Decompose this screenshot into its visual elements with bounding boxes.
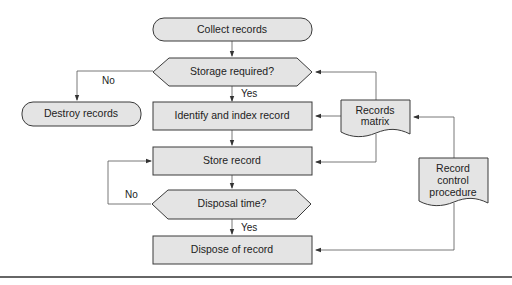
node-collect-records: Collect records xyxy=(153,18,312,41)
node-label: Collect records xyxy=(197,23,267,35)
node-records-matrix: Records matrix xyxy=(341,100,410,137)
arrow-control-to-matrix xyxy=(414,117,454,158)
node-identify-index: Identify and index record xyxy=(153,102,312,130)
arrow-storage-no-to-destroy xyxy=(77,71,153,100)
node-label: Destroy records xyxy=(44,107,118,119)
edge-label-storage-yes: Yes xyxy=(241,88,257,99)
records-flowchart: No Yes No Yes Collect records Storage re… xyxy=(0,0,512,285)
arrow-matrix-to-store xyxy=(316,134,376,162)
node-label-line1: Record xyxy=(436,162,470,174)
node-record-control-procedure: Record control procedure xyxy=(419,158,488,206)
edge-label-disposal-yes: Yes xyxy=(241,222,257,233)
node-label: Storage required? xyxy=(190,65,274,77)
node-store-record: Store record xyxy=(153,147,312,175)
node-label-line2: matrix xyxy=(361,115,390,127)
node-storage-required: Storage required? xyxy=(153,58,312,86)
node-label: Store record xyxy=(203,154,261,166)
node-destroy-records: Destroy records xyxy=(22,102,141,126)
node-label-line2: control xyxy=(437,174,469,186)
node-label: Disposal time? xyxy=(198,197,267,209)
arrow-control-to-dispose xyxy=(316,203,454,250)
edge-label-storage-no: No xyxy=(102,75,115,86)
node-label-line3: procedure xyxy=(429,186,476,198)
node-label: Identify and index record xyxy=(175,109,290,121)
node-disposal-time: Disposal time? xyxy=(152,190,311,219)
node-dispose-record: Dispose of record xyxy=(153,236,312,264)
edge-label-disposal-no: No xyxy=(125,189,138,200)
arrow-matrix-to-storage xyxy=(316,72,376,100)
node-label: Dispose of record xyxy=(191,243,273,255)
